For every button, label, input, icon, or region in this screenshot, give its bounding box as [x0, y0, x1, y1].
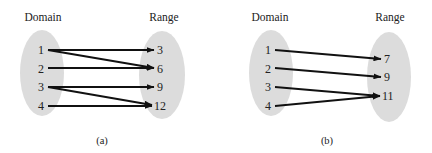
range-element-b-9: 9 — [384, 70, 390, 84]
domain-label-b: Domain — [251, 11, 288, 23]
range-element-b-11: 11 — [382, 89, 394, 103]
domain-element-b-3: 3 — [265, 80, 271, 94]
range-label-a: Range — [149, 11, 178, 24]
domain-element-a-4: 4 — [38, 99, 44, 113]
diagram-a: Domain Range 1 2 3 4 3 6 9 12 (a) — [20, 11, 185, 147]
domain-element-a-2: 2 — [38, 62, 44, 76]
range-element-a-9: 9 — [157, 80, 163, 94]
domain-set-ellipse-b — [249, 30, 293, 116]
domain-element-b-1: 1 — [265, 43, 271, 57]
domain-label-a: Domain — [24, 11, 61, 23]
domain-element-a-1: 1 — [38, 43, 44, 57]
arrow-b-4-to-11 — [275, 96, 380, 106]
function-mapping-figure: Domain Range 1 2 3 4 3 6 9 12 (a) Domain… — [0, 0, 432, 153]
range-element-b-7: 7 — [384, 52, 390, 66]
range-label-b: Range — [375, 11, 404, 24]
domain-element-a-3: 3 — [38, 80, 44, 94]
caption-b: (b) — [321, 135, 334, 147]
domain-element-b-4: 4 — [265, 99, 271, 113]
range-element-a-3: 3 — [157, 43, 163, 57]
arrow-a-3-to-12 — [48, 87, 152, 105]
range-element-a-12: 12 — [154, 99, 166, 113]
caption-a: (a) — [96, 135, 108, 147]
arrow-a-1-to-6 — [48, 50, 154, 68]
range-element-a-6: 6 — [157, 62, 163, 76]
domain-element-b-2: 2 — [265, 62, 271, 76]
diagram-b: Domain Range 1 2 3 4 7 9 11 (b) — [249, 11, 411, 147]
